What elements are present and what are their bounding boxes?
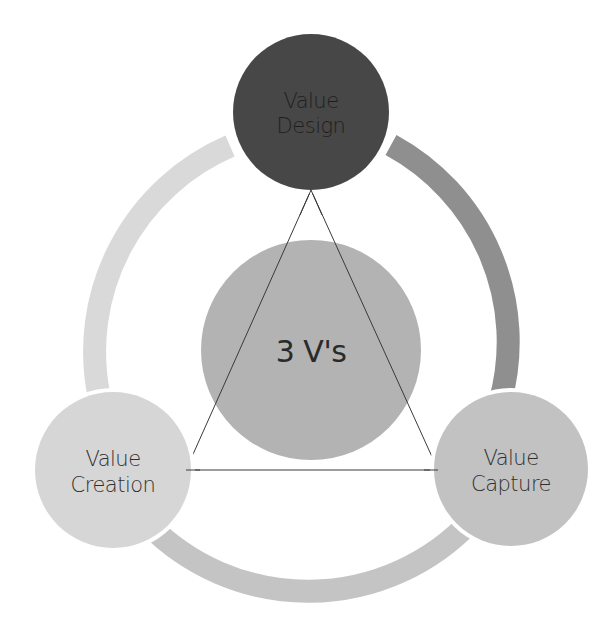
node-label-line1: Value bbox=[85, 447, 140, 471]
node-value-design[interactable]: Value Design bbox=[229, 30, 393, 194]
three-vs-diagram: 3 V's Value Design Value Creation Value … bbox=[0, 0, 606, 623]
node-label-line2: Capture bbox=[471, 472, 551, 496]
center-label: 3 V's bbox=[276, 334, 347, 369]
node-label-line1: Value bbox=[483, 446, 538, 470]
node-value-capture[interactable]: Value Capture bbox=[430, 388, 592, 550]
ring-segment-capture-to-creation bbox=[148, 521, 471, 591]
node-label-line1: Value bbox=[283, 89, 338, 113]
node-value-creation[interactable]: Value Creation bbox=[31, 388, 195, 552]
node-label-line2: Creation bbox=[71, 473, 156, 497]
node-label-line2: Design bbox=[277, 114, 346, 138]
